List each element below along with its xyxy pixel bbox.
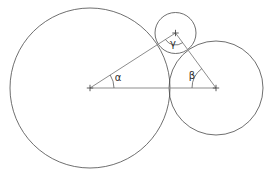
triangle-edge-left	[90, 33, 176, 88]
large-circle-center-marker	[87, 85, 93, 91]
angle-label-alpha: α	[115, 72, 122, 83]
angle-arc-alpha	[110, 75, 114, 88]
geometry-figure: α β γ	[0, 0, 268, 175]
angle-label-beta: β	[189, 70, 195, 81]
angle-labels-group: α β γ	[115, 38, 195, 83]
angle-label-gamma: γ	[170, 38, 176, 49]
figure-canvas: α β γ	[0, 0, 268, 175]
triangle-group	[90, 33, 216, 88]
